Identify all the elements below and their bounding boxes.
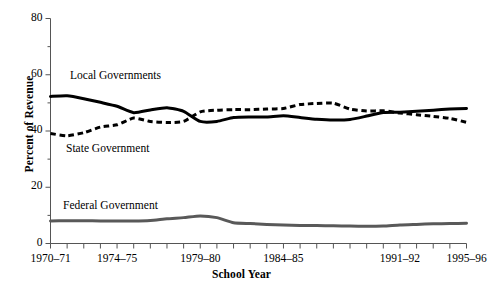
data-series	[51, 96, 467, 227]
series-line-federal-government	[51, 216, 467, 226]
series-line-state-government	[51, 103, 467, 136]
axes	[46, 19, 467, 249]
